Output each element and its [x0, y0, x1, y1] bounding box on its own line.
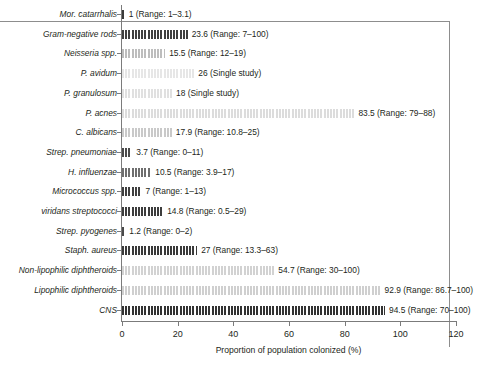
bar-row: C. albicans17.9 (Range: 10.8–25): [0, 123, 488, 142]
bar-value-label: 17.9 (Range: 10.8–25): [176, 123, 260, 142]
x-axis-tick-label: 40: [213, 328, 253, 340]
category-label: Strep. pyogenes: [0, 222, 117, 241]
bar-value-label: 83.5 (Range: 79–88): [358, 104, 435, 123]
x-axis-tick: [233, 321, 234, 326]
bar-value-label: 94.5 (Range: 70–100): [389, 301, 471, 320]
bar-row: CNS94.5 (Range: 70–100): [0, 301, 488, 320]
bar-fill: [122, 266, 274, 275]
bar-value-label: 1 (Range: 1–3.1): [129, 5, 192, 24]
category-label: P. acnes: [0, 104, 117, 123]
bar-fill: [122, 69, 194, 78]
bar-fill: [122, 187, 141, 196]
bar-value-label: 3.7 (Range: 0–11): [136, 143, 203, 162]
category-label: Micrococcus spp.: [0, 182, 117, 201]
category-label: P. avidum: [0, 64, 117, 83]
bar-fill: [122, 109, 354, 118]
bar-value-label: 15.5 (Range: 12–19): [169, 44, 246, 63]
category-label: viridans streptococci: [0, 202, 117, 221]
category-label: C. albicans: [0, 123, 117, 142]
x-axis-tick: [178, 321, 179, 326]
bar-fill: [122, 49, 165, 58]
x-axis-tick-label: 0: [102, 328, 142, 340]
bar-row: P. acnes83.5 (Range: 79–88): [0, 104, 488, 123]
category-label: Non-lipophilic diphtheroids: [0, 261, 117, 280]
bar-fill: [122, 306, 385, 315]
x-axis-title: Proportion of population colonized (%): [121, 345, 456, 355]
bar-row: Neisseria spp.15.5 (Range: 12–19): [0, 44, 488, 63]
x-axis-tick: [400, 321, 401, 326]
bar-fill: [122, 227, 125, 236]
bar: [122, 207, 163, 216]
x-axis-tick-label: 80: [325, 328, 365, 340]
bar: [122, 128, 172, 137]
x-axis-tick: [345, 321, 346, 326]
bar: [122, 49, 165, 58]
bar-value-label: 18 (Single study): [176, 84, 239, 103]
bar-fill: [122, 286, 381, 295]
bar-row: Mor. catarrhalis1 (Range: 1–3.1): [0, 5, 488, 24]
bar-fill: [122, 246, 197, 255]
bar: [122, 89, 172, 98]
category-label: Neisseria spp.: [0, 44, 117, 63]
bar-value-label: 92.9 (Range: 86.7–100): [385, 281, 473, 300]
bar-fill: [122, 207, 163, 216]
bar-value-label: 27 (Range: 13.3–63): [201, 241, 278, 260]
category-label: CNS: [0, 301, 117, 320]
category-label: Gram-negative rods: [0, 25, 117, 44]
bar-value-label: 7 (Range: 1–13): [145, 182, 206, 201]
bar: [122, 148, 132, 157]
bar: [122, 187, 141, 196]
bar-fill: [122, 148, 132, 157]
category-label: Strep. pneumoniae: [0, 143, 117, 162]
x-axis-tick-label: 120: [436, 328, 476, 340]
bar: [122, 69, 194, 78]
bar-row: viridans streptococci14.8 (Range: 0.5–29…: [0, 202, 488, 221]
bar: [122, 30, 188, 39]
x-axis-tick: [289, 321, 290, 326]
bar: [122, 246, 197, 255]
bar-row: Gram-negative rods23.6 (Range: 7–100): [0, 25, 488, 44]
bar-row: H. influenzae10.5 (Range: 3.9–17): [0, 163, 488, 182]
category-label: H. influenzae: [0, 163, 117, 182]
category-label: Lipophilic diphtheroids: [0, 281, 117, 300]
bar-fill: [122, 89, 172, 98]
bar: [122, 109, 354, 118]
x-axis-tick: [456, 321, 457, 326]
bar-value-label: 1.2 (Range: 0–2): [129, 222, 192, 241]
bar-row: Micrococcus spp.7 (Range: 1–13): [0, 182, 488, 201]
bar: [122, 266, 274, 275]
x-axis-tick-label: 20: [158, 328, 198, 340]
bar: [122, 306, 385, 315]
bar-value-label: 54.7 (Range: 30–100): [278, 261, 360, 280]
bar-value-label: 26 (Single study): [198, 64, 261, 83]
category-label: P. granulosum: [0, 84, 117, 103]
bar-value-label: 14.8 (Range: 0.5–29): [167, 202, 246, 221]
bar: [122, 10, 125, 19]
bar-row: Staph. aureus27 (Range: 13.3–63): [0, 241, 488, 260]
bar-value-label: 23.6 (Range: 7–100): [192, 25, 269, 44]
bar-row: Non-lipophilic diphtheroids54.7 (Range: …: [0, 261, 488, 280]
bar-row: P. granulosum18 (Single study): [0, 84, 488, 103]
bar-fill: [122, 30, 188, 39]
category-label: Mor. catarrhalis: [0, 5, 117, 24]
bar-value-label: 10.5 (Range: 3.9–17): [155, 163, 234, 182]
bar: [122, 227, 125, 236]
y-axis-line: [121, 5, 122, 321]
x-axis-tick-label: 60: [269, 328, 309, 340]
x-axis-tick: [122, 321, 123, 326]
bar-row: Lipophilic diphtheroids92.9 (Range: 86.7…: [0, 281, 488, 300]
bar-fill: [122, 10, 125, 19]
x-axis-tick-label: 100: [380, 328, 420, 340]
bar-row: Strep. pneumoniae3.7 (Range: 0–11): [0, 143, 488, 162]
bar: [122, 168, 151, 177]
bar: [122, 286, 381, 295]
category-label: Staph. aureus: [0, 241, 117, 260]
bar-row: Strep. pyogenes1.2 (Range: 0–2): [0, 222, 488, 241]
bar-fill: [122, 128, 172, 137]
bar-row: P. avidum26 (Single study): [0, 64, 488, 83]
bar-chart: Mor. catarrhalis1 (Range: 1–3.1)Gram-neg…: [0, 0, 488, 369]
bar-fill: [122, 168, 151, 177]
